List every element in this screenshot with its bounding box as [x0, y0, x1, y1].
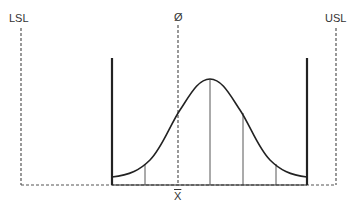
bell-curve — [112, 79, 307, 177]
process-capability-diagram — [0, 0, 357, 212]
usl-label: USL — [325, 13, 346, 24]
mean-label: X — [174, 191, 181, 202]
target-label: Ø — [174, 12, 183, 23]
lsl-label: LSL — [9, 13, 29, 24]
